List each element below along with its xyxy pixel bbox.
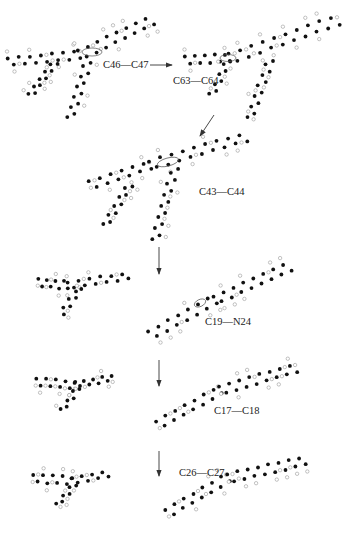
ball-model-molecule-icon [70,471,111,485]
ball-model-molecule-icon [227,12,342,63]
bond-label-c46-c47: C46—C47 [103,59,149,70]
ball-model-molecule-icon [150,167,180,241]
ball-model-molecule-icon [22,62,60,96]
bond-label-c43-c44: C43—C44 [199,186,245,197]
ball-model-molecule-icon [87,156,153,192]
ellipse-bond-marker-icon [82,48,102,56]
ball-model-molecule-icon [65,61,98,119]
ball-model-molecule-icon [212,256,294,309]
ball-model-molecule-icon [246,59,275,121]
bond-label-c26-c27: C26—C27 [179,467,225,478]
bond-label-c19-n24: C19—N24 [205,316,251,327]
ball-model-molecule-icon [55,387,82,411]
ball-model-molecule-icon [217,357,299,399]
ball-model-molecule-icon [73,17,160,58]
ball-model-molecule-icon [147,133,249,173]
bond-label-c17-c18: C17—C18 [214,405,260,416]
ball-model-molecule-icon [54,484,78,509]
reaction-arrow-icon [200,115,214,136]
ellipse-bond-marker-icon [193,297,207,308]
ball-model-molecule-icon [5,43,82,73]
ball-model-molecule-icon [183,46,232,72]
ball-model-molecule-icon [61,284,83,319]
ball-model-molecule-icon [225,457,309,488]
ball-model-molecule-icon [101,185,139,226]
bond-label-c63-c64: C63—C64 [173,75,219,86]
ball-model-molecule-icon [36,272,70,297]
ball-model-molecule-icon [65,271,130,290]
fragmentation-diagram: C46—C47 C63—C64 C43—C44 C19—N24 C17—C18 … [0,0,348,533]
